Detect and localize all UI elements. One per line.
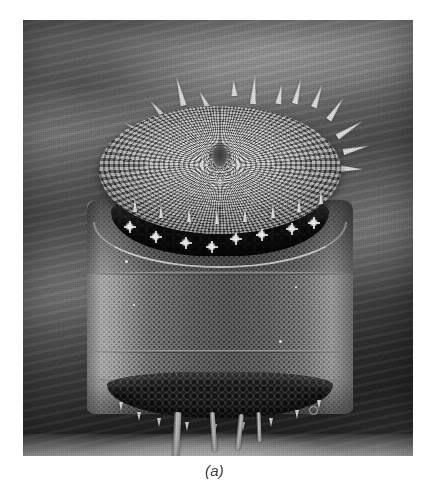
fultoportula-process xyxy=(207,242,216,251)
basal-spine xyxy=(295,410,299,419)
debris-speck xyxy=(125,260,128,263)
figure-caption: (a) xyxy=(0,462,429,479)
rim-spine xyxy=(215,210,219,224)
rim-spine xyxy=(187,208,191,222)
rim-spine xyxy=(297,198,301,212)
marginal-spine xyxy=(292,78,304,105)
marginal-spine xyxy=(311,84,325,109)
fultoportula-process xyxy=(287,224,296,233)
diatom-frustule xyxy=(81,72,359,416)
fultoportula-process xyxy=(151,232,160,241)
valve-face xyxy=(99,106,341,234)
basal-spine xyxy=(269,418,273,427)
marginal-spine xyxy=(173,76,186,107)
fultoportula-process xyxy=(231,234,240,243)
debris-speck xyxy=(295,286,297,288)
marginal-spine xyxy=(250,74,258,104)
marginal-spine xyxy=(275,84,284,105)
basal-spine xyxy=(137,412,141,421)
girdle-band-seam-2 xyxy=(87,350,353,353)
fultoportula-process xyxy=(125,222,134,231)
girdle-band-seam-1 xyxy=(87,272,353,276)
basal-spine xyxy=(157,418,161,427)
figure-panel: (a) xyxy=(0,0,429,495)
valve-concentric-rows xyxy=(99,106,341,234)
rim-spine xyxy=(319,190,323,204)
debris-speck xyxy=(133,304,135,306)
debris-speck xyxy=(279,340,282,343)
fultoportula-process xyxy=(181,238,190,247)
rim-spine xyxy=(133,198,137,212)
rim-spine xyxy=(243,208,247,222)
marginal-spine xyxy=(326,97,346,122)
substrate-floor-highlight xyxy=(23,434,413,456)
basal-spine xyxy=(185,422,189,431)
fultoportula-process xyxy=(257,230,266,239)
marginal-spine xyxy=(341,166,363,173)
ring-debris-speck xyxy=(309,406,318,415)
rim-spine xyxy=(271,204,275,218)
rim-spine xyxy=(159,204,163,218)
marginal-spine xyxy=(230,80,237,96)
fultoportula-process xyxy=(309,218,318,227)
basal-spine xyxy=(119,402,123,411)
sem-micrograph-photo xyxy=(23,20,413,456)
